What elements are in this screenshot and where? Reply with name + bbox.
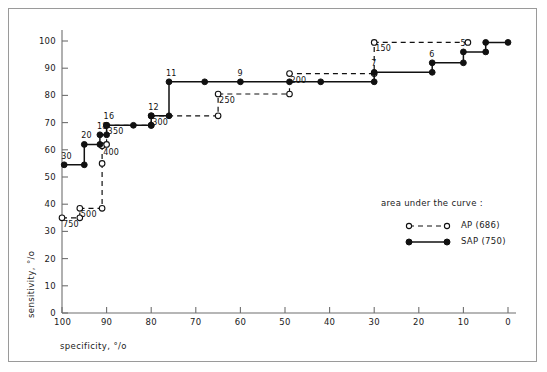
x-tick-label: 30 (366, 317, 382, 327)
data-point-label: 500 (81, 210, 97, 219)
data-point-marker (97, 142, 103, 148)
y-tick-label: 60 (36, 145, 56, 155)
legend-symbol-sap (403, 236, 457, 248)
y-axis-ticks (62, 41, 68, 313)
data-point-marker (461, 49, 467, 55)
data-point-label: 20 (81, 131, 92, 140)
data-point-label: 16 (104, 112, 115, 121)
legend-title: area under the curve : (381, 198, 483, 208)
data-point-marker (429, 69, 435, 75)
y-tick-label: 70 (36, 118, 56, 128)
data-point-label: 30 (61, 152, 72, 161)
legend-symbol-ap (403, 220, 457, 232)
data-point-marker (505, 40, 511, 46)
data-point-marker (99, 206, 105, 212)
data-point-label: 18 (97, 122, 108, 131)
data-point-marker (465, 40, 471, 46)
y-tick-label: 40 (36, 199, 56, 209)
data-point-marker (97, 132, 103, 138)
x-tick-label: 20 (411, 317, 427, 327)
data-point-marker (371, 69, 377, 75)
data-point-marker (215, 113, 221, 119)
y-tick-label: 0 (36, 308, 56, 318)
legend: area under the curve : AP (686) SAP (750… (381, 198, 521, 250)
data-point-marker (318, 79, 324, 85)
x-tick-label: 90 (99, 317, 115, 327)
y-tick-label: 30 (36, 226, 56, 236)
x-tick-label: 70 (188, 317, 204, 327)
legend-label-ap: AP (686) (461, 220, 500, 230)
data-point-label: 200 (290, 76, 306, 85)
x-tick-label: 80 (143, 317, 159, 327)
data-point-marker (287, 91, 293, 97)
data-point-marker (483, 49, 489, 55)
data-point-marker (81, 142, 87, 148)
data-point-label: 9 (237, 69, 242, 78)
chart-screenshot: 1009080706050403020100010203040506070809… (0, 0, 547, 372)
y-tick-label: 90 (36, 63, 56, 73)
data-point-label: 400 (103, 148, 119, 157)
x-tick-label: 50 (277, 317, 293, 327)
x-axis-ticks (62, 307, 508, 313)
data-point-label: 150 (375, 44, 391, 53)
y-tick-label: 100 (36, 36, 56, 46)
x-tick-label: 60 (232, 317, 248, 327)
x-tick-label: 0 (500, 317, 516, 327)
data-point-label: 750 (63, 220, 79, 229)
x-tick-label: 100 (54, 317, 70, 327)
data-point-marker (238, 79, 244, 85)
data-point-marker (202, 79, 208, 85)
y-tick-label: 50 (36, 172, 56, 182)
y-tick-label: 80 (36, 90, 56, 100)
y-axis-title: sensitivity, °/o (26, 251, 36, 318)
x-tick-label: 40 (322, 317, 338, 327)
data-point-marker (371, 79, 377, 85)
series-sap-path (64, 42, 508, 164)
data-point-label: 6 (429, 50, 434, 59)
data-point-label: 350 (108, 127, 124, 136)
y-tick-label: 20 (36, 254, 56, 264)
x-axis-title: specificity, °/o (60, 341, 127, 351)
data-point-label: 5 (460, 39, 465, 48)
data-point-label: 11 (166, 69, 177, 78)
x-tick-label: 10 (455, 317, 471, 327)
data-point-marker (166, 79, 172, 85)
data-point-label: 250 (219, 96, 235, 105)
data-point-label: 300 (152, 118, 168, 127)
data-point-marker (131, 122, 137, 128)
series-sap-line (61, 40, 511, 168)
legend-label-sap: SAP (750) (461, 236, 506, 246)
data-point-marker (81, 162, 87, 168)
y-tick-label: 10 (36, 281, 56, 291)
data-point-marker (483, 40, 489, 46)
data-point-label: 7 (371, 59, 376, 68)
data-point-marker (461, 60, 467, 66)
data-point-marker (104, 142, 110, 148)
data-point-marker (429, 60, 435, 66)
data-point-label: 12 (148, 103, 159, 112)
data-point-marker (99, 161, 105, 167)
data-point-marker (61, 162, 67, 168)
